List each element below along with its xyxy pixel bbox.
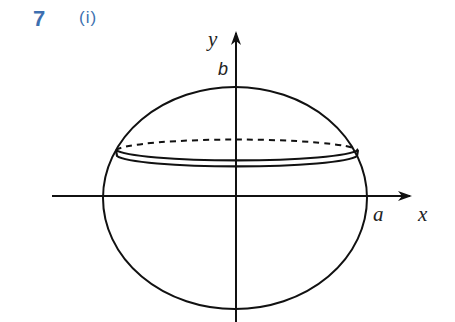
b-intercept-label: b [218, 59, 228, 79]
x-axis-label: x [417, 202, 428, 226]
a-intercept-label: a [373, 202, 384, 226]
ellipse-diagram: y b a x [0, 0, 455, 322]
y-axis-label: y [206, 27, 218, 51]
